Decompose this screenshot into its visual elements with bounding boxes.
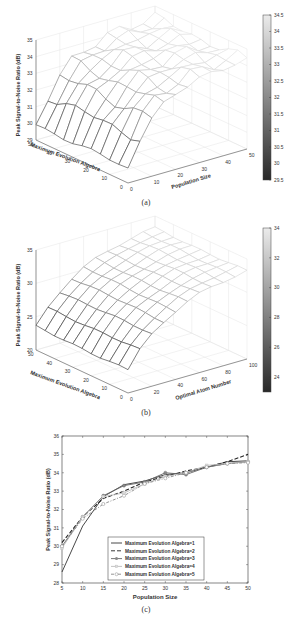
colorbar-tick-label: 30 [274, 161, 280, 166]
x-tick-label: 20 [154, 389, 160, 395]
caption-a: (a) [0, 198, 292, 207]
x-tick-label: 50 [249, 152, 255, 158]
x-tick-label: 0 [130, 186, 133, 192]
z-tick-label: 30 [27, 120, 33, 126]
z-tick-label: 32 [27, 87, 33, 93]
colorbar-tick-label: 32 [274, 95, 280, 100]
colorbar-tick-label: 34.5 [274, 13, 284, 18]
x-tick-label: 30 [201, 166, 207, 172]
x-tick-label: 40 [178, 382, 184, 388]
y-tick-label: 32 [53, 506, 59, 512]
z-tick-label: 35 [27, 37, 33, 43]
colorbar-tick-label: 33 [274, 62, 280, 67]
x-tick-label: 10 [80, 585, 86, 591]
colorbar-tick-label: 32 [274, 256, 280, 261]
z-tick-label: 33 [27, 70, 33, 76]
legend-entry: Maximum Evolution Algebra=3 [125, 556, 195, 561]
chart-b: 0204060801000102030405020253035Optimal A… [0, 210, 292, 420]
y-tick-label: 35 [53, 451, 59, 457]
z-tick-label: 30 [27, 280, 33, 286]
x-tick-label: 5 [61, 585, 64, 591]
surface-plot-a: 010203040500102030405029303132333435Popu… [0, 0, 292, 200]
legend-entry: Maximum Evolution Algebra=4 [125, 564, 195, 569]
x-tick-label: 60 [201, 376, 207, 382]
chart-a: 010203040500102030405029303132333435Popu… [0, 0, 292, 210]
y-tick-label: 40 [46, 360, 52, 366]
x-tick-label: 40 [204, 585, 210, 591]
x-tick-label: 25 [142, 585, 148, 591]
z-tick-label: 35 [27, 247, 33, 253]
colorbar-tick-label: 31 [274, 128, 280, 133]
colorbar-tick-label: 33.5 [274, 46, 284, 51]
z-tick-label: 25 [27, 314, 33, 320]
z-tick-label: 31 [27, 104, 33, 110]
x-axis-title: Population Size [133, 594, 178, 600]
colorbar-tick-label: 24 [274, 375, 280, 380]
colorbar-tick-label: 28 [274, 315, 280, 320]
colorbar-tick-label: 29.5 [274, 178, 284, 183]
x-tick-label: 100 [249, 362, 258, 368]
y-tick-label: 30 [53, 543, 59, 549]
y-tick-label: 30 [65, 368, 71, 374]
y-tick-label: 36 [53, 433, 59, 439]
legend-entry: Maximum Evolution Algebra=5 [125, 572, 195, 577]
y-tick-label: 33 [53, 488, 59, 494]
x-tick-label: 45 [225, 585, 231, 591]
colorbar-tick-label: 34 [274, 226, 280, 231]
caption-c: (c) [0, 605, 292, 614]
legend-entry: Maximum Evolution Algebra=1 [125, 541, 195, 546]
x-tick-label: 30 [163, 585, 169, 591]
surface-mesh [36, 227, 247, 370]
colorbar-tick-label: 31.5 [274, 112, 284, 117]
y-tick-label: 20 [83, 377, 89, 383]
z-axis-title: Peak Signal-to-Noise Ratio (dB) [15, 54, 21, 137]
y-tick-label: 10 [102, 175, 108, 181]
y-tick-label: 0 [120, 394, 123, 400]
y-tick-label: 34 [53, 470, 59, 476]
line-plot-c: 5101520253035404550282930313233343536Pop… [0, 420, 292, 605]
colorbar-tick-label: 30 [274, 285, 280, 290]
colorbar-tick-label: 32.5 [274, 79, 284, 84]
colorbar-tick-label: 30.5 [274, 145, 284, 150]
x-tick-label: 20 [121, 585, 127, 591]
z-tick-label: 34 [27, 54, 33, 60]
x-tick-label: 50 [245, 585, 251, 591]
y-tick-label: 10 [102, 385, 108, 391]
x-tick-label: 40 [225, 159, 231, 165]
legend-entry: Maximum Evolution Algebra=2 [125, 549, 195, 554]
y-tick-label: 0 [120, 184, 123, 190]
x-tick-label: 15 [101, 585, 107, 591]
colorbar-tick-label: 26 [274, 345, 280, 350]
y-tick-label: 31 [53, 525, 59, 531]
colorbar [263, 228, 271, 392]
surface-plot-b: 0204060801000102030405020253035Optimal A… [0, 210, 292, 410]
caption-b: (b) [0, 408, 292, 417]
z-axis-title: Peak Signal-to-Noise Ratio (dB) [15, 264, 21, 347]
y-axis-title: Peak Signal-to-Noise Ratio (dB) [45, 468, 51, 551]
x-tick-label: 0 [130, 396, 133, 402]
x-tick-label: 35 [183, 585, 189, 591]
y-tick-label: 29 [53, 561, 59, 567]
x-tick-label: 20 [178, 172, 184, 178]
y-tick-label: 28 [53, 580, 59, 586]
legend: Maximum Evolution Algebra=1Maximum Evolu… [108, 537, 204, 580]
colorbar-tick-label: 34 [274, 29, 280, 34]
x-tick-label: 10 [154, 179, 160, 185]
x-tick-label: 80 [225, 369, 231, 375]
chart-c: 5101520253035404550282930313233343536Pop… [0, 420, 292, 621]
z-tick-label: 20 [27, 347, 33, 353]
